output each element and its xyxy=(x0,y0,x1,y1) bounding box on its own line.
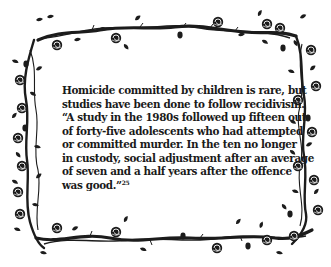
passage-line-3: “A study in the 1980s followed up fiftee… xyxy=(62,111,268,125)
passage-line-4: of forty-five adolescents who had attemp… xyxy=(62,125,268,139)
passage-line-8: was good.”25 xyxy=(62,179,268,193)
quote-passage: Homicide committed by children is rare, … xyxy=(62,84,268,192)
passage-line-1: Homicide committed by children is rare, … xyxy=(62,84,268,98)
passage-line-8-text: was good.” xyxy=(62,179,122,191)
passage-line-7: of seven and a half years after the offe… xyxy=(62,165,268,179)
passage-line-5: or committed murder. In the ten no longe… xyxy=(62,138,268,152)
passage-line-2: studies have been done to follow recidiv… xyxy=(62,98,268,112)
footnote-marker: 25 xyxy=(122,179,130,186)
passage-line-6: in custody, social adjustment after an a… xyxy=(62,152,268,166)
